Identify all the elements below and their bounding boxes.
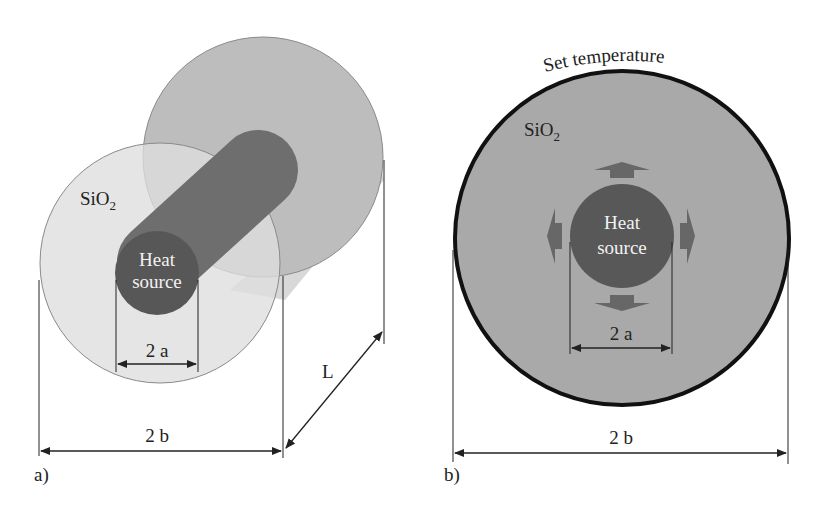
length-label: L	[322, 361, 334, 382]
panel-b-label: b)	[444, 464, 460, 486]
panel-a-cylinder: Heat source SiO2	[40, 37, 384, 383]
heat-source-label-b-line2: source	[597, 237, 647, 258]
inner-diameter-label-b: 2 a	[610, 323, 633, 344]
panel-b-cross-section: Set temperature SiO2 Heat source	[455, 44, 789, 405]
heat-source-disc-b	[570, 184, 674, 288]
heat-source-label-b-line1: Heat	[604, 212, 641, 233]
heat-source-label-line2: source	[132, 271, 182, 292]
heat-source-label-line1: Heat	[139, 249, 176, 270]
inner-diameter-label: 2 a	[146, 340, 169, 361]
figure-canvas: Heat source SiO2 2 a 2 b a) L Set temper…	[0, 0, 826, 512]
outer-diameter-label-b: 2 b	[609, 427, 633, 448]
panel-a-label: a)	[34, 464, 49, 486]
outer-diameter-label: 2 b	[145, 425, 169, 446]
